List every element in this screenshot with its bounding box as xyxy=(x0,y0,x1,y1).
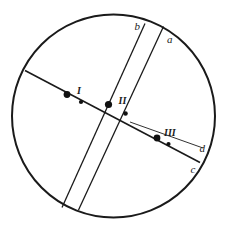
chord-main-line xyxy=(25,71,200,163)
point-II-large xyxy=(105,101,112,108)
point-III-large xyxy=(154,135,161,142)
label-point-I: I xyxy=(76,85,82,96)
label-a: a xyxy=(167,33,173,45)
point-II-small xyxy=(123,111,128,116)
circle-diagram-svg: b a d c I II III xyxy=(0,0,228,231)
outer-circle xyxy=(12,15,215,218)
point-III-small xyxy=(166,142,170,146)
label-d: d xyxy=(200,142,206,154)
label-b: b xyxy=(135,20,141,32)
band-line-b xyxy=(62,24,145,208)
point-I-large xyxy=(64,91,71,98)
label-point-III: III xyxy=(163,127,177,138)
label-c: c xyxy=(191,163,196,175)
band-line-a xyxy=(79,27,164,211)
label-point-II: II xyxy=(118,95,128,106)
figure-container: b a d c I II III xyxy=(0,0,228,231)
point-I-small xyxy=(79,100,83,104)
